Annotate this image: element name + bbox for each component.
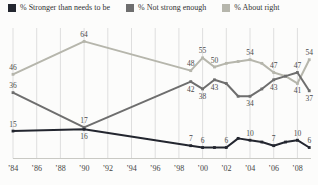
data-point-label: 50 [211,56,219,65]
data-point-marker [189,80,192,83]
data-point-marker [83,128,86,131]
data-point-marker [249,58,252,61]
x-tick-label: ’06 [268,164,279,173]
data-point-marker [201,146,204,149]
data-point-label: 37 [306,94,314,103]
series-line [13,72,309,127]
data-point-label: 7 [272,134,276,143]
x-tick-label: ’90 [79,164,90,173]
data-point-label: 43 [270,83,278,92]
data-point-label: 41 [294,86,302,95]
data-point-marker [308,146,311,149]
data-point-marker [296,82,299,85]
data-point-marker [213,66,216,69]
data-point-marker [189,144,192,147]
x-tick-label: ’04 [245,164,256,173]
data-point-label: 55 [199,46,207,55]
data-point-label: 47 [270,61,278,70]
data-point-marker [272,144,275,147]
data-point-marker [12,130,15,133]
data-point-label: 64 [80,30,88,39]
series-line [13,129,309,147]
data-point-marker [83,40,86,43]
data-point-marker [308,58,311,61]
data-point-marker [237,60,240,63]
data-point-marker [272,78,275,81]
data-point-label: 15 [9,120,17,129]
x-tick-label: ’88 [55,164,66,173]
data-point-label: 43 [211,83,219,92]
data-point-label: 6 [201,136,205,145]
x-tick-label: ’08 [292,164,303,173]
data-point-marker [260,62,263,65]
x-tick-label: ’02 [221,164,232,173]
x-tick-label: ’94 [126,164,137,173]
data-point-marker [296,139,299,142]
x-tick-label: ’96 [150,164,161,173]
series-line [13,41,309,83]
data-point-marker [237,95,240,98]
data-point-label: 48 [187,59,195,68]
x-tick-label: ’98 [174,164,185,173]
data-point-label: 54 [306,48,314,57]
data-point-marker [213,146,216,149]
data-point-marker [201,56,204,59]
data-point-label: 46 [9,63,17,72]
data-point-marker [260,88,263,91]
data-point-label: 42 [187,85,195,94]
x-tick-label: ’00 [197,164,208,173]
data-point-marker [213,78,216,81]
data-point-marker [284,141,287,144]
data-point-label: 7 [189,134,193,143]
data-point-marker [249,95,252,98]
data-point-marker [260,141,263,144]
data-point-marker [201,88,204,91]
data-point-label: 54 [246,48,254,57]
data-point-label: 36 [9,81,17,90]
data-point-label: 17 [80,116,88,125]
data-point-marker [225,146,228,149]
line-chart-plot-area: ’84’86’88’90’92’94’96’98’00’02’04’06’084… [0,0,318,185]
data-point-marker [225,62,228,65]
data-point-marker [12,73,15,76]
data-point-label: 34 [246,99,254,108]
data-point-marker [237,137,240,140]
data-point-marker [225,82,228,85]
data-point-label: 10 [246,129,254,138]
data-point-marker [296,71,299,74]
data-point-label: 6 [224,136,228,145]
data-point-label: 38 [199,92,207,101]
x-tick-label: ’86 [31,164,42,173]
x-tick-label: ’84 [8,164,19,173]
data-point-marker [12,91,15,94]
data-point-label: 47 [294,61,302,70]
data-point-marker [284,75,287,78]
data-point-marker [189,69,192,72]
data-point-label: 16 [80,132,88,141]
data-point-marker [308,89,311,92]
data-point-label: 6 [307,136,311,145]
x-tick-label: ’92 [102,164,113,173]
data-point-marker [249,139,252,142]
data-point-label: 10 [294,129,302,138]
national-defense-trend-chart: % Stronger than needs to be % Not strong… [0,0,318,185]
data-point-marker [272,71,275,74]
